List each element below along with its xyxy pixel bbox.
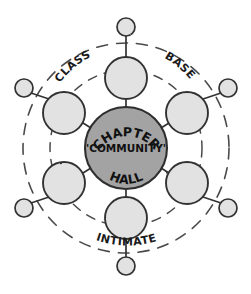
outer-upper-left[interactable] (15, 79, 33, 97)
spoke-lower-right-outer (203, 197, 221, 203)
spoke-lower-left-outer (31, 197, 49, 203)
core-line-middle: 'COMMUNITY' (86, 142, 166, 154)
outer-upper-right[interactable] (219, 79, 237, 97)
outer-lower-left[interactable] (15, 199, 33, 217)
outer-top[interactable] (117, 18, 135, 36)
ring-label-class: CLASS (52, 48, 93, 85)
spoke-upper-right-outer (203, 93, 221, 99)
community-diagram-canvas: CHAPTER 'COMMUNITY' HALL CLASS BASE INTI… (0, 0, 251, 294)
outer-lower-right[interactable] (219, 199, 237, 217)
node-upper-right[interactable] (166, 92, 208, 134)
node-lower-left[interactable] (43, 162, 85, 204)
diagram-root: CHAPTER 'COMMUNITY' HALL CLASS BASE INTI… (0, 0, 251, 294)
node-top[interactable] (105, 57, 147, 99)
ring-label-base: BASE (163, 49, 198, 82)
outer-bottom[interactable] (117, 257, 135, 275)
node-bottom[interactable] (105, 197, 147, 239)
spoke-upper-left-outer (31, 93, 49, 99)
node-lower-right[interactable] (166, 162, 208, 204)
node-upper-left[interactable] (43, 92, 85, 134)
